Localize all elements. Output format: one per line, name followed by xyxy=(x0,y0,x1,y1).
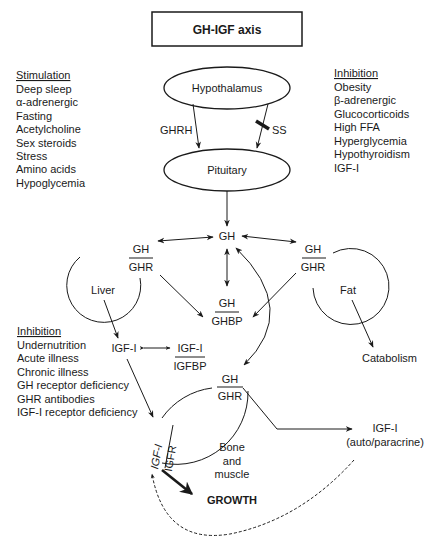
svg-text:GH: GH xyxy=(222,373,239,385)
svg-text:IGF-I: IGF-I xyxy=(177,342,202,354)
svg-text:GH: GH xyxy=(133,243,150,255)
igf1-liver-label: IGF-I xyxy=(111,342,136,354)
igf1-auto-label: IGF-I xyxy=(372,422,397,434)
diagram-title: GH-IGF axis xyxy=(193,23,262,37)
list-item: β-adrenergic xyxy=(334,94,396,106)
list-item: GHR antibodies xyxy=(17,393,95,405)
inhibition-heading: Inhibition xyxy=(334,67,378,79)
svg-text:muscle: muscle xyxy=(215,468,250,480)
inhibition-heading: Inhibition xyxy=(17,325,61,337)
gh-liver-bidirectional-arrow xyxy=(158,237,213,241)
gh-igf-axis-diagram: GH-IGF axis Stimulation Deep sleep α-adr… xyxy=(0,0,447,552)
stimulation-list: Stimulation Deep sleep α-adrenergic Fast… xyxy=(16,69,86,189)
gh-center-label: GH xyxy=(219,230,236,242)
svg-text:and: and xyxy=(223,455,241,467)
list-item: α-adrenergic xyxy=(16,96,78,108)
fat-to-catabolism-arrow xyxy=(352,300,373,347)
list-item: Stress xyxy=(16,150,48,162)
inhibition-list-bottom: Inhibition Undernutrition Acute illness … xyxy=(17,325,138,418)
pituitary-node: Pituitary xyxy=(164,149,290,191)
ss-label: SS xyxy=(272,124,287,136)
stimulation-heading: Stimulation xyxy=(16,69,70,81)
list-item: Obesity xyxy=(334,81,372,93)
list-item: Undernutrition xyxy=(17,339,86,351)
ghrh-arrow xyxy=(193,104,199,148)
list-item: Hypoglycemia xyxy=(16,177,86,189)
hypothalamus-label: Hypothalamus xyxy=(192,82,263,94)
svg-text:IGFBP: IGFBP xyxy=(173,360,206,372)
svg-text:GH: GH xyxy=(219,297,236,309)
liver-to-ghbp-arrow xyxy=(160,275,203,317)
igfr-complex: IGF-I IGFR xyxy=(148,442,178,472)
svg-text:GHR: GHR xyxy=(218,390,243,402)
svg-text:GHR: GHR xyxy=(129,261,154,273)
list-item: Acetylcholine xyxy=(16,123,81,135)
list-item: Sex steroids xyxy=(16,137,77,149)
growth-arrow xyxy=(162,470,192,494)
auto-paracrine-label: (auto/paracrine) xyxy=(346,436,424,448)
svg-text:Bone: Bone xyxy=(219,441,245,453)
fat-receptor: GH GHR xyxy=(301,243,326,273)
list-item: Hyperglycemia xyxy=(334,135,408,147)
growth-label: GROWTH xyxy=(207,494,257,506)
pituitary-label: Pituitary xyxy=(207,164,247,176)
catabolism-label: Catabolism xyxy=(362,352,417,364)
list-item: GH receptor deficiency xyxy=(17,379,129,391)
list-item: Amino acids xyxy=(16,163,76,175)
fat-to-ghbp-arrow xyxy=(253,273,296,317)
inhibition-list-top: Inhibition Obesity β-adrenergic Glucocor… xyxy=(334,67,410,174)
hypothalamus-node: Hypothalamus xyxy=(164,67,290,109)
ghbp-complex: GH GHBP xyxy=(211,297,242,327)
gh-fat-bidirectional-arrow xyxy=(242,236,296,242)
liver-label: Liver xyxy=(91,284,115,296)
svg-text:IGFR: IGFR xyxy=(162,444,178,472)
fat-node: Fat xyxy=(313,248,389,324)
svg-text:GHBP: GHBP xyxy=(211,315,242,327)
ghr-to-autoparacrine-arrow xyxy=(243,388,352,429)
list-item: IGF-I receptor deficiency xyxy=(17,406,138,418)
svg-text:GHR: GHR xyxy=(301,261,326,273)
gh-bone-curved-arrow xyxy=(236,248,270,365)
fat-label: Fat xyxy=(340,284,356,296)
list-item: IGF-I xyxy=(334,162,359,174)
liver-receptor: GH GHR xyxy=(129,243,154,273)
list-item: Chronic illness xyxy=(17,366,89,378)
list-item: Deep sleep xyxy=(16,83,72,95)
ghrh-label: GHRH xyxy=(160,124,192,136)
liver-to-igf1-arrow xyxy=(104,300,118,338)
list-item: Fasting xyxy=(16,110,52,122)
list-item: Glucocorticoids xyxy=(334,108,410,120)
bone-receptor: GH GHR xyxy=(217,373,243,402)
list-item: Hypothyroidism xyxy=(334,148,410,160)
svg-text:GH: GH xyxy=(305,243,322,255)
igfbp-complex: IGF-I IGFBP xyxy=(173,342,206,372)
list-item: Acute illness xyxy=(17,352,79,364)
list-item: High FFA xyxy=(334,121,381,133)
title-box: GH-IGF axis xyxy=(152,12,302,46)
